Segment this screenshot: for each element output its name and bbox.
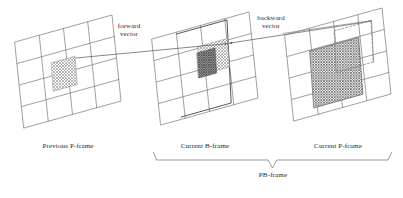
- diagram-canvas: forward vector backward vector Previous …: [0, 0, 403, 198]
- pb-frame-bracket: [154, 153, 392, 169]
- frame-label-current-p-frame: Current P-frame: [284, 143, 392, 151]
- frame-label-current-b-frame: Current B-frame: [151, 143, 259, 151]
- backward-vector-label-line1: backward: [257, 14, 285, 21]
- backward-vector-label: backward vector: [245, 14, 297, 29]
- block-b-subblock: [197, 48, 216, 78]
- forward-vector-label-line2: vector: [120, 30, 138, 37]
- frame-label-previous-p-frame: Previous P-frame: [14, 143, 122, 151]
- forward-vector-label: forward vector: [106, 22, 152, 37]
- forward-vector-label-line1: forward: [118, 22, 141, 29]
- backward-vector-label-line2: vector: [262, 22, 280, 29]
- diagram-svg: [0, 0, 403, 198]
- pb-frame-label: PB-frame: [236, 172, 310, 180]
- block-reference-macroblock: [52, 56, 78, 91]
